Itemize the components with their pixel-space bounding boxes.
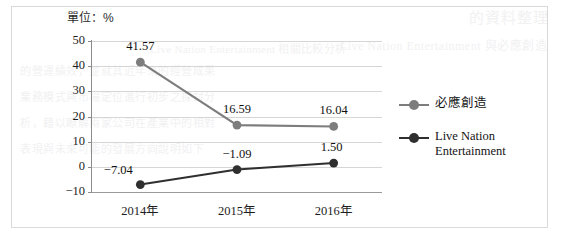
y-axis-tick [88,66,92,67]
legend-marker-icon [399,98,429,112]
y-tick-label: 20 [57,109,85,124]
y-axis-tick [88,142,92,143]
y-tick-label: 50 [57,33,85,48]
unit-label: 單位：% [67,8,114,25]
y-tick-label: −10 [57,184,85,199]
y-axis-tick [88,167,92,168]
y-tick-label: 30 [57,83,85,98]
legend-label: Live NationEntertainment [429,129,506,159]
data-value-label: −1.09 [223,147,252,162]
figure-page: 的資料整理 Live Nation Entertainment 與必應創造 Li… [0,0,563,239]
y-axis-tick [88,91,92,92]
y-axis-tick [88,117,92,118]
x-tick-label: 2016年 [315,200,353,219]
legend-label: 必應創造 [429,96,487,111]
x-tick-label: 2015年 [218,200,256,219]
gridline [92,167,382,168]
data-value-label: 41.57 [126,39,154,54]
y-axis-tick [88,41,92,42]
legend-item[interactable]: Live NationEntertainment [399,129,549,159]
chart-legend: 必應創造Live NationEntertainment [399,96,549,176]
y-tick-label: 10 [57,134,85,149]
data-value-label: 16.59 [223,102,251,117]
gridline [92,192,382,193]
gridline [92,91,382,92]
data-value-label: 16.04 [320,103,348,118]
x-tick-label: 2014年 [121,200,159,219]
legend-item[interactable]: 必應創造 [399,96,549,112]
x-axis-tick-labels: 2014年2015年2016年 [92,200,382,220]
y-tick-label: 40 [57,58,85,73]
legend-marker-icon [399,131,429,145]
data-value-label: 1.50 [321,140,343,155]
y-axis-tick-labels: 50403020100−10 [55,41,85,192]
y-tick-label: 0 [57,159,85,174]
y-axis-tick [88,192,92,193]
gridline [92,66,382,67]
data-value-label: −7.04 [104,163,133,178]
